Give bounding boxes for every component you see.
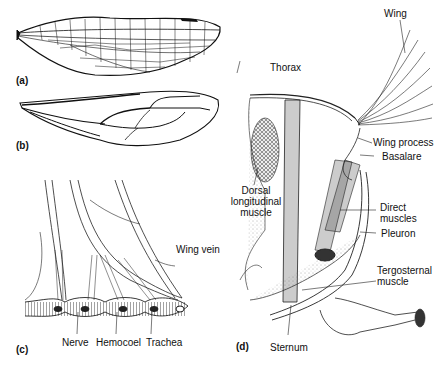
label-dorsal-line3: muscle (228, 207, 284, 218)
label-pleuron: Pleuron (381, 228, 415, 239)
label-sternum: Sternum (270, 342, 308, 353)
label-thorax: Thorax (270, 62, 301, 73)
label-trachea: Trachea (146, 337, 182, 348)
wing-a-drawing (17, 17, 220, 75)
panel-label-d: (d) (236, 341, 249, 352)
panel-label-c: (c) (16, 344, 28, 355)
label-direct-line1: Direct (380, 202, 417, 213)
label-terg-line2: muscle (377, 276, 432, 287)
label-nerve: Nerve (62, 337, 89, 348)
label-hemocoel: Hemocoel (96, 337, 141, 348)
label-basalare: Basalare (382, 151, 421, 162)
thorax-muscle-drawing (237, 20, 433, 335)
label-dorsal-line2: longitudinal (228, 196, 284, 207)
label-wing-vein: Wing vein (176, 244, 220, 255)
label-dorsal-longitudinal-muscle: Dorsal longitudinal muscle (228, 185, 284, 218)
wing-vein-section-drawing (25, 180, 188, 334)
label-dorsal-line1: Dorsal (228, 185, 284, 196)
label-direct-line2: muscles (380, 213, 417, 224)
label-tergosternal-muscle: Tergosternal muscle (377, 265, 432, 287)
wing-b-drawing (20, 91, 219, 145)
label-wing: Wing (384, 8, 407, 19)
figure-artwork (0, 0, 442, 367)
label-terg-line1: Tergosternal (377, 265, 432, 276)
panel-label-a: (a) (16, 75, 28, 86)
panel-label-b: (b) (16, 140, 29, 151)
label-wing-process: Wing process (373, 137, 434, 148)
label-direct-muscles: Direct muscles (380, 202, 417, 224)
